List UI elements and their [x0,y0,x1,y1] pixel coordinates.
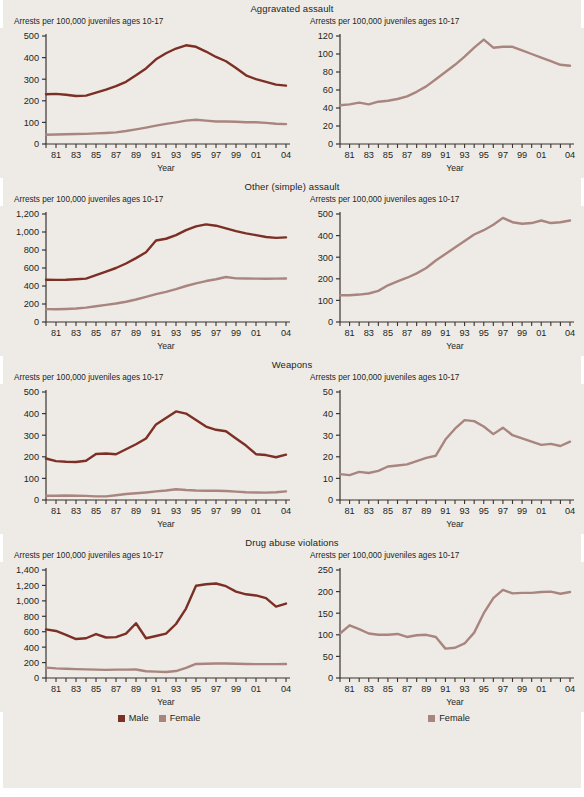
x-tick-label: 91 [151,328,161,338]
x-tick-label: 83 [364,506,374,516]
y-tick-label: 100 [24,474,39,484]
x-tick-label: 85 [383,506,393,516]
x-tick-label: 95 [191,328,201,338]
legend-label: Male [129,713,149,723]
legend-item-female[interactable]: Female [428,713,470,723]
x-tick-label: 91 [440,150,450,160]
x-axis-title: Year [157,519,175,529]
y-axis-caption: Arrests per 100,000 juveniles ages 10-17 [310,550,584,562]
chart-svg-right: 01020304050818385878991939597990104Year [300,384,584,534]
x-tick-label: 87 [111,150,121,160]
x-tick-label: 81 [51,150,61,160]
x-axis-title: Year [157,697,175,707]
x-tick-label: 97 [498,684,508,694]
x-tick-label: 99 [231,506,241,516]
y-tick-label: 100 [24,118,39,128]
panel-title: Aggravated assault [0,0,584,16]
chart-cell-left: Arrests per 100,000 juveniles ages 10-17… [0,16,300,178]
y-tick-label: 120 [318,31,333,41]
y-axis-caption: Arrests per 100,000 juveniles ages 10-17 [14,194,300,206]
y-tick-label: 30 [323,431,333,441]
x-tick-label: 93 [171,506,181,516]
x-tick-label: 01 [251,684,261,694]
chart-cell-right: Arrests per 100,000 juveniles ages 10-17… [300,550,584,712]
chart-svg-left: 0100200300400500818385878991939597990104… [0,384,300,534]
x-tick-label: 93 [171,150,181,160]
y-tick-label: 100 [318,296,333,306]
y-tick-label: 60 [323,85,333,95]
x-axis-title: Year [157,163,175,173]
y-axis-caption: Arrests per 100,000 juveniles ages 10-17 [14,372,300,384]
x-tick-label: 99 [517,328,527,338]
x-tick-label: 93 [459,684,469,694]
x-tick-label: 01 [251,328,261,338]
y-tick-label: 0 [328,673,333,683]
x-tick-label: 89 [131,684,141,694]
x-tick-label: 83 [364,684,374,694]
x-axis-title: Year [446,697,464,707]
y-tick-label: 40 [323,103,333,113]
x-tick-label: 99 [231,328,241,338]
panel-title: Drug abuse violations [0,534,584,550]
x-tick-label: 83 [71,328,81,338]
legend-label: Female [439,713,470,723]
panels-container: Aggravated assaultArrests per 100,000 ju… [0,0,584,712]
x-tick-label: 89 [421,506,431,516]
panel-title: Weapons [0,356,584,372]
x-tick-label: 89 [131,328,141,338]
x-tick-label: 85 [91,150,101,160]
legend-swatch-icon [428,715,435,722]
panel-2: Other (simple) assaultArrests per 100,00… [0,178,584,356]
x-tick-label: 01 [536,328,546,338]
y-tick-label: 0 [34,673,39,683]
x-tick-label: 95 [191,150,201,160]
x-tick-label: 95 [191,684,201,694]
x-tick-label: 85 [383,150,393,160]
x-tick-label: 91 [440,684,450,694]
y-axis-caption: Arrests per 100,000 juveniles ages 10-17 [310,372,584,384]
x-tick-label: 93 [459,150,469,160]
x-tick-label: 91 [440,506,450,516]
y-tick-label: 1,000 [16,227,39,237]
y-tick-label: 10 [323,474,333,484]
panel-title: Other (simple) assault [0,178,584,194]
x-tick-label: 87 [402,506,412,516]
x-tick-label: 81 [344,506,354,516]
x-tick-label: 81 [51,506,61,516]
x-tick-label: 83 [71,684,81,694]
legend-item-female[interactable]: Female [159,713,201,723]
x-tick-label: 89 [131,506,141,516]
x-tick-label: 93 [171,328,181,338]
panel-3: WeaponsArrests per 100,000 juveniles age… [0,356,584,534]
x-tick-label: 01 [251,506,261,516]
x-tick-label: 85 [91,506,101,516]
y-tick-label: 200 [318,274,333,284]
x-tick-label: 01 [251,150,261,160]
y-tick-label: 400 [24,281,39,291]
figure-page: Aggravated assaultArrests per 100,000 ju… [0,0,584,797]
legend-left: MaleFemale [0,713,300,723]
x-tick-label: 91 [151,506,161,516]
x-tick-label: 81 [51,684,61,694]
x-tick-label: 97 [498,328,508,338]
x-tick-label: 97 [498,506,508,516]
x-tick-label: 04 [565,506,575,516]
x-tick-label: 95 [479,328,489,338]
y-tick-label: 200 [24,96,39,106]
y-tick-label: 100 [318,49,333,59]
charts-row: Arrests per 100,000 juveniles ages 10-17… [0,194,584,356]
chart-cell-left: Arrests per 100,000 juveniles ages 10-17… [0,372,300,534]
x-tick-label: 04 [281,328,291,338]
y-axis-caption: Arrests per 100,000 juveniles ages 10-17 [310,16,584,28]
y-tick-label: 500 [24,387,39,397]
x-tick-label: 97 [211,328,221,338]
x-axis-title: Year [446,163,464,173]
y-tick-label: 50 [323,652,333,662]
y-tick-label: 200 [24,452,39,462]
x-tick-label: 85 [91,328,101,338]
x-tick-label: 04 [281,684,291,694]
legend-item-male[interactable]: Male [118,713,149,723]
chart-svg-right: 020406080100120818385878991939597990104Y… [300,28,584,178]
y-tick-label: 0 [34,139,39,149]
y-axis-caption: Arrests per 100,000 juveniles ages 10-17 [14,550,300,562]
